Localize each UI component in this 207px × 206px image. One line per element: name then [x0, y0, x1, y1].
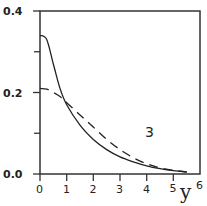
plot-frame	[40, 11, 200, 174]
dashed-curve	[40, 88, 187, 172]
x-tick-label: 2	[90, 183, 97, 196]
x-ticks	[40, 174, 173, 181]
x-tick-label: 0	[36, 183, 43, 196]
x-tick-label: 5	[170, 182, 177, 195]
x-axis-label: y	[179, 180, 192, 204]
y-ticks	[33, 11, 40, 174]
line-chart: 0.4 0.2 0.0 0 1 2 3 4 5 6 y 3	[0, 0, 207, 206]
x-tick-label: 1	[63, 183, 70, 196]
y-tick-label: 0.0	[3, 168, 23, 181]
y-tick-label: 0.4	[3, 5, 23, 18]
y-tick-label: 0.2	[3, 87, 23, 100]
solid-curve	[40, 36, 187, 173]
x-tick-label: 6	[196, 179, 203, 192]
x-tick-label: 3	[116, 183, 123, 196]
x-tick-label: 4	[143, 183, 150, 196]
curve-label: 3	[145, 124, 154, 140]
